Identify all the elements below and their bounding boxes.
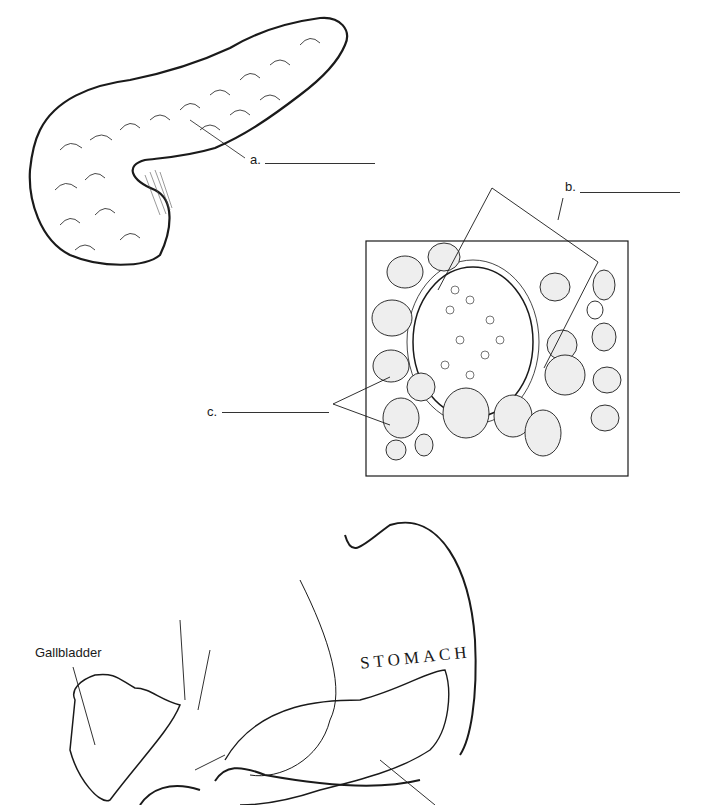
label-b: b. bbox=[565, 179, 576, 194]
gallbladder-label: Gallbladder bbox=[35, 645, 102, 660]
label-a: a. bbox=[250, 152, 261, 167]
label-c: c. bbox=[207, 404, 217, 419]
answer-blank-a[interactable] bbox=[265, 163, 375, 164]
answer-blank-c[interactable] bbox=[222, 412, 329, 413]
answer-blank-b[interactable] bbox=[580, 192, 680, 193]
diagram-canvas bbox=[0, 0, 704, 805]
tissue-micrograph bbox=[333, 188, 628, 476]
pancreas-illustration bbox=[30, 18, 347, 265]
